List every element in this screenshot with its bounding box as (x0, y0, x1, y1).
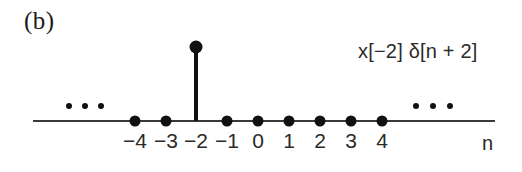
sample-dot (315, 116, 326, 127)
sample-dot (377, 116, 388, 127)
impulse-stem (194, 47, 198, 121)
n-axis-line (33, 120, 495, 122)
sample-dot (130, 116, 141, 127)
x-tick-label: 3 (345, 130, 357, 151)
signal-figure: (b) x[−2] δ[n + 2] n −4−3−2−101234 (0, 0, 522, 172)
ellipsis-dot (413, 103, 419, 109)
sample-dot (161, 116, 172, 127)
signal-expression-label: x[−2] δ[n + 2] (358, 40, 478, 63)
n-axis-label: n (482, 133, 493, 153)
x-tick-label: −2 (184, 130, 208, 151)
ellipsis-dot (98, 103, 104, 109)
ellipsis-dot (447, 103, 453, 109)
x-tick-label: 2 (314, 130, 326, 151)
sample-dot (253, 116, 264, 127)
x-tick-label: −4 (123, 130, 147, 151)
x-tick-label: −3 (154, 130, 178, 151)
ellipsis-dot (82, 103, 88, 109)
ellipsis-dot (66, 103, 72, 109)
x-tick-label: −1 (215, 130, 239, 151)
sample-dot (222, 116, 233, 127)
x-tick-label: 4 (376, 130, 388, 151)
panel-label: (b) (24, 8, 55, 33)
impulse-stem-head (190, 41, 203, 54)
ellipsis-dot (430, 103, 436, 109)
sample-dot (346, 116, 357, 127)
sample-dot (284, 116, 295, 127)
x-tick-label: 0 (252, 130, 264, 151)
x-tick-label: 1 (283, 130, 295, 151)
